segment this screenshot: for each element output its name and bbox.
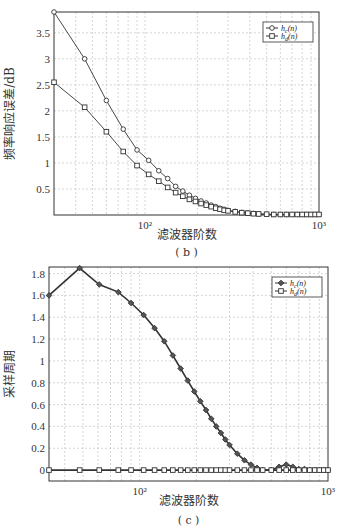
data-point-marker [302,468,307,473]
y-axis-label: 采样周期 [2,350,17,398]
data-point-marker [141,468,146,473]
y-tick-label: 0.6 [31,399,45,411]
data-point-marker [233,210,238,215]
legend: hc(n)hd(n) [263,22,313,42]
data-point-marker [199,201,204,206]
data-point-marker [317,468,322,473]
data-point-marker [278,212,283,217]
legend-marker-icon [270,26,275,31]
data-point-marker [47,468,52,473]
data-point-marker [255,468,260,473]
data-point-marker [264,212,269,217]
data-point-marker [249,468,254,473]
figure-caption: ( c ) [178,514,200,527]
y-tick-label: 1.4 [31,311,45,323]
data-point-marker [116,468,121,473]
data-point-marker [121,127,126,132]
y-tick-label: 2 [45,105,51,117]
data-point-marker [152,468,157,473]
legend-entry: hd(n) [281,32,298,42]
data-point-marker [129,468,134,473]
data-point-marker [192,468,197,473]
data-point-marker [173,190,178,195]
data-point-marker [214,468,219,473]
data-point-marker [260,468,265,473]
data-point-marker [269,468,274,473]
data-point-marker [135,148,140,153]
data-point-marker [187,197,192,202]
x-axis-label: 滤波器阶数 [159,493,219,508]
data-point-marker [82,105,87,110]
data-point-marker [104,129,109,134]
grid [49,267,328,481]
x-axis-label: 滤波器阶数 [157,227,217,242]
data-point-marker [295,212,300,217]
y-tick-label: 0.2 [31,442,45,454]
data-point-marker [52,10,57,15]
y-tick-label: 3 [45,53,51,65]
data-point-marker [317,212,322,217]
data-point-marker [77,468,82,473]
data-point-marker [242,468,247,473]
figure-canvas: 0.511.522.533.510²10³滤波器阶数频率响应误差/dB( b )… [0,0,338,531]
y-tick-label: 1.6 [31,289,45,301]
data-point-marker [284,212,289,217]
series-hdn [47,468,331,473]
data-point-marker [300,212,305,217]
data-point-marker [178,468,183,473]
y-tick-label: 1.8 [31,268,45,280]
data-point-marker [156,179,161,184]
y-tick-label: 0.4 [31,420,45,432]
y-axis-label: 频率响应误差/dB [2,67,17,160]
data-point-marker [209,204,214,209]
data-point-marker [246,211,251,216]
data-point-marker [256,212,261,217]
data-point-marker [185,468,190,473]
y-tick-label: 1 [40,355,46,367]
y-tick-label: 1.2 [31,333,45,345]
data-point-marker [251,211,256,216]
y-tick-label: 1.5 [36,131,50,143]
legend-marker-icon [270,34,275,39]
data-point-marker [162,468,167,473]
x-tick-label: 10² [138,219,153,231]
legend: hc(n)hd(n) [272,277,322,297]
data-point-marker [235,468,240,473]
x-tick-label: 10² [133,485,148,497]
data-point-marker [326,468,331,473]
data-point-marker [307,468,312,473]
data-point-marker [146,158,151,163]
data-point-marker [165,176,170,181]
data-point-marker [209,468,214,473]
data-point-marker [181,189,186,194]
data-point-marker [52,80,57,85]
data-point-marker [171,468,176,473]
data-point-marker [284,468,289,473]
y-tick-label: 2.5 [36,79,50,91]
data-point-marker [277,468,282,473]
data-point-marker [104,98,109,103]
data-point-marker [198,468,203,473]
data-point-marker [297,468,302,473]
legend-marker-icon [279,289,284,294]
x-tick-label: 10³ [321,485,336,497]
data-point-marker [121,149,126,154]
data-point-marker [227,468,232,473]
data-point-marker [226,209,231,214]
chart-b: 0.511.522.533.510²10³滤波器阶数频率响应误差/dB( b )… [2,10,327,259]
data-point-marker [82,57,87,62]
legend-entry: hd(n) [290,287,307,297]
plot-frame [54,12,319,215]
data-point-marker [272,212,277,217]
data-point-marker [181,194,186,199]
data-point-marker [219,468,224,473]
data-point-marker [193,199,198,204]
data-point-marker [173,184,178,189]
y-tick-label: 0 [40,464,46,476]
y-tick-label: 3.5 [36,27,50,39]
y-tick-label: 0.8 [31,377,45,389]
grid [54,12,319,215]
data-point-marker [97,468,102,473]
x-tick-label: 10³ [312,219,327,231]
data-point-marker [156,168,161,173]
